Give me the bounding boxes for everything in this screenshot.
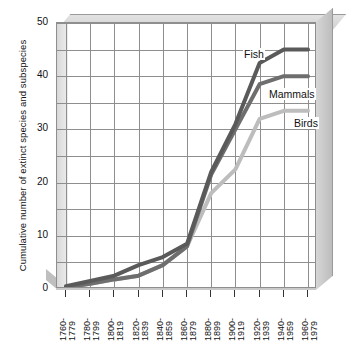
x-tick-mark (307, 290, 308, 297)
x-tick-mark (113, 290, 114, 297)
x-tick-mark (283, 290, 284, 297)
x-tick-mark (65, 290, 66, 297)
x-tick-mark (234, 290, 235, 297)
x-tick-label-end: 1979 (310, 321, 319, 341)
y-tick-label: 20 (37, 177, 48, 187)
x-tick-label-end: 1879 (189, 321, 198, 341)
series-line-birds (66, 111, 308, 288)
x-tick-label-end: 1919 (237, 321, 246, 341)
y-tick-label: 50 (37, 17, 48, 27)
plot-area (56, 22, 316, 288)
x-tick-label-end: 1899 (213, 321, 222, 341)
series-line-mammals (66, 76, 308, 287)
x-tick-mark (186, 290, 187, 297)
x-tick-label-end: 1959 (286, 321, 295, 341)
x-tick-label-end: 1859 (165, 321, 174, 341)
series-label-fish: Fish (243, 48, 265, 60)
x-axis-tick-labels: 1760-17791780-17991800-18191820-18391840… (0, 299, 348, 343)
x-tick-label-end: 1779 (68, 321, 77, 341)
series-label-birds: Birds (293, 117, 319, 129)
x-tick-label-end: 1839 (141, 321, 150, 341)
x-tick-label-end: 1819 (116, 321, 125, 341)
x-tick-mark (89, 290, 90, 297)
series-lines (57, 23, 316, 288)
series-line-fish (66, 50, 308, 287)
x-tick-mark (162, 290, 163, 297)
series-label-mammals: Mammals (268, 88, 316, 100)
y-tick-label: 10 (37, 230, 48, 240)
y-tick-label: 40 (37, 70, 48, 80)
chart-figure: Cumulative number of extinct species and… (0, 0, 348, 343)
x-tick-label-end: 1939 (262, 321, 271, 341)
y-tick-label: 30 (37, 123, 48, 133)
chart-right-wall (316, 8, 333, 290)
x-tick-mark (210, 290, 211, 297)
x-tick-mark (138, 290, 139, 297)
x-tick-mark (259, 290, 260, 297)
x-tick-label-end: 1799 (92, 321, 101, 341)
